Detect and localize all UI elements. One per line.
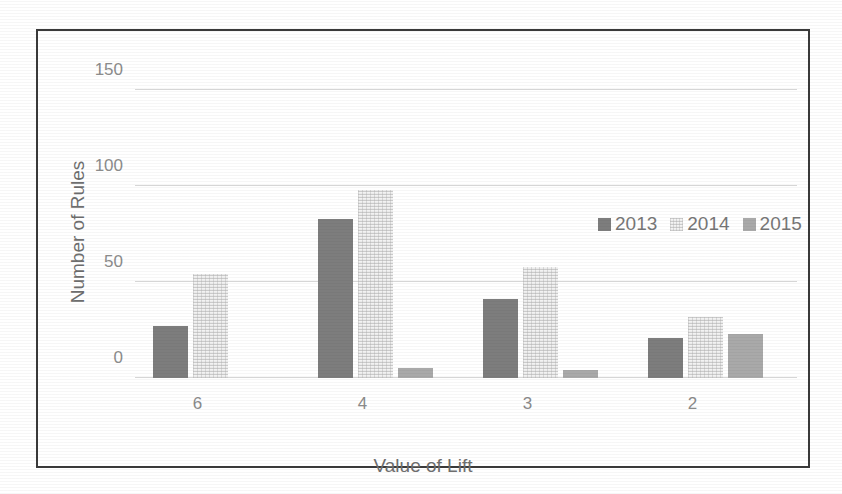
bar-2015-2 xyxy=(728,334,763,378)
bar-2013-2 xyxy=(648,338,683,378)
bar-2014-2 xyxy=(688,317,723,378)
y-axis-tick-label: 50 xyxy=(104,252,123,272)
legend-label: 2015 xyxy=(760,213,802,235)
legend-item-2013: 2013 xyxy=(598,213,657,235)
chart-legend: 201320142015 xyxy=(598,213,802,235)
legend-item-2015: 2015 xyxy=(743,213,802,235)
y-axis-tick-label: 0 xyxy=(114,348,123,368)
y-axis-title: Number of Rules xyxy=(65,86,91,378)
legend-swatch-icon xyxy=(598,218,611,231)
bar-2015-4 xyxy=(398,368,433,378)
bar-2013-6 xyxy=(153,326,188,378)
bar-group: 6 xyxy=(135,86,300,378)
x-axis-tick-label: 3 xyxy=(465,394,590,414)
x-axis-title: Value of Lift xyxy=(74,455,772,477)
bar-2014-4 xyxy=(358,190,393,378)
legend-swatch-icon xyxy=(670,218,683,231)
y-axis-title-label: Number of Rules xyxy=(67,161,89,304)
x-axis-tick-label: 2 xyxy=(630,394,755,414)
chart-figure-frame: Number of Rules 050100150 6432 201320142… xyxy=(36,29,810,468)
legend-item-2014: 2014 xyxy=(670,213,729,235)
x-axis-tick-label: 4 xyxy=(300,394,425,414)
bar-2014-3 xyxy=(523,267,558,378)
y-axis-tick-label: 150 xyxy=(95,60,123,80)
bar-group: 4 xyxy=(300,86,465,378)
legend-label: 2013 xyxy=(615,213,657,235)
bar-2013-3 xyxy=(483,299,518,378)
bar-2015-3 xyxy=(563,370,598,378)
bar-2014-6 xyxy=(193,274,228,378)
y-axis-tick-label: 100 xyxy=(95,156,123,176)
bar-2013-4 xyxy=(318,219,353,378)
legend-swatch-icon xyxy=(743,218,756,231)
legend-label: 2014 xyxy=(687,213,729,235)
x-axis-tick-label: 6 xyxy=(135,394,260,414)
